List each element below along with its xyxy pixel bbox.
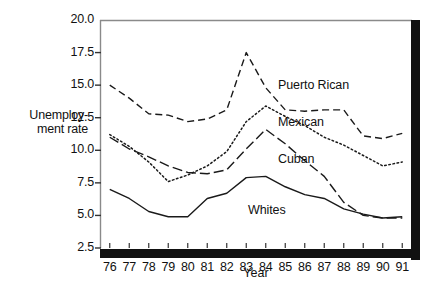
series-line-whites [110, 176, 403, 218]
chart-figure: Unemploy- ment rate 2.55.07.510.012.515.… [0, 0, 444, 286]
plot-area [0, 0, 444, 286]
series-line-puerto-rican [110, 53, 403, 139]
x-axis-ticks [110, 243, 403, 248]
plot-frame [100, 20, 420, 260]
series-line-cuban [110, 129, 403, 218]
series-line-mexican [110, 106, 403, 182]
data-series-lines [110, 53, 403, 218]
